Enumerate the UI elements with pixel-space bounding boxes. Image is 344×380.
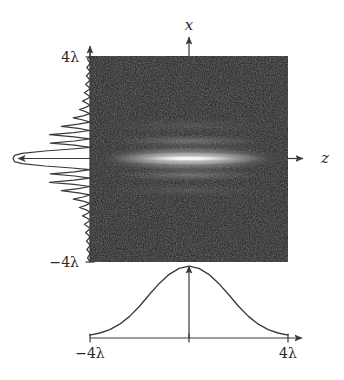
figure-container: z x 4λ −4λ −4λ 4λ [0,0,344,380]
transverse-profile-curve [13,57,90,262]
z-profile-axis [90,266,302,343]
figure-svg: z x 4λ −4λ −4λ 4λ [0,0,344,380]
z-axis-tick-label-left: −4λ [75,345,105,361]
x-axis-label: x [185,16,194,34]
x-axis-tick-label-top: 4λ [61,49,79,65]
z-axis-tick-label-right: 4λ [279,345,297,361]
x-axis-tick-label-bottom: −4λ [49,254,79,270]
intensity-map [85,56,293,262]
z-axis-label: z [320,149,329,167]
